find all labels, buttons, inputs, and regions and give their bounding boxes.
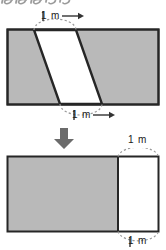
bottom-white-unit-column <box>118 157 159 232</box>
bottom-figure-top-dashed-arc <box>118 148 159 157</box>
top-measure-arrow-icon <box>62 13 84 19</box>
transform-down-arrow-icon <box>52 128 76 150</box>
diagram-canvas: 1 m 1 m 1 m 1 m <box>0 0 166 250</box>
unit-column-bottom-label: 1 m <box>128 236 147 246</box>
top-length-label: 1 m <box>41 11 60 21</box>
top-figure-parallelogram <box>0 0 166 120</box>
bottom-gray-region <box>8 157 119 232</box>
unit-column-top-label: 1 m <box>128 135 147 145</box>
top-figure-bottom-length-label: 1 m <box>72 110 91 120</box>
bottom-measure-arrow-icon <box>93 112 115 118</box>
